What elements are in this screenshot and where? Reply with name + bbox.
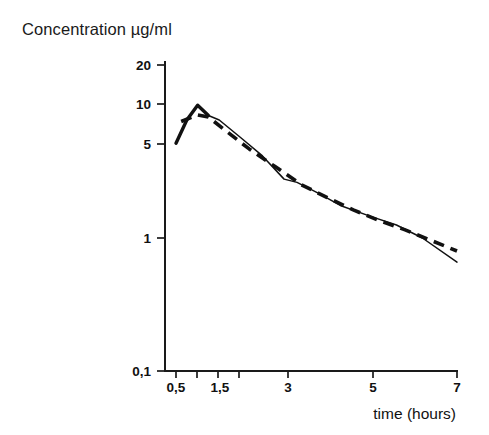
y-tick-label-10: 10 xyxy=(136,97,151,112)
y-tick-label-5: 5 xyxy=(143,137,151,152)
y-tick-label-1: 1 xyxy=(143,231,151,246)
x-tick-label-1-5: 1,5 xyxy=(211,380,230,395)
y-tick-label-0-1: 0,1 xyxy=(132,364,151,379)
series-dashed-line xyxy=(181,115,457,251)
x-tick-label-7: 7 xyxy=(453,380,461,395)
x-tick-label-0-5: 0,5 xyxy=(167,380,186,395)
series-solid-rise-segment xyxy=(176,105,208,143)
x-axis-title: time (hours) xyxy=(373,405,456,422)
plot-series-group xyxy=(176,105,457,262)
x-tick-marks xyxy=(176,371,457,378)
x-tick-label-5: 5 xyxy=(369,380,377,395)
series-solid-line xyxy=(176,105,457,262)
y-tick-label-20: 20 xyxy=(136,58,151,73)
y-axis-group: 20 10 5 1 0,1 xyxy=(132,58,165,379)
y-tick-marks xyxy=(157,65,165,371)
chart-figure: Concentration µg/ml 20 10 5 1 0,1 xyxy=(0,0,489,435)
x-axis-group: 0,5 1,5 3 5 7 time (hours) xyxy=(165,371,461,422)
chart-canvas: 20 10 5 1 0,1 0,5 1,5 3 5 7 time (hours) xyxy=(0,0,489,435)
x-tick-label-3: 3 xyxy=(284,380,292,395)
